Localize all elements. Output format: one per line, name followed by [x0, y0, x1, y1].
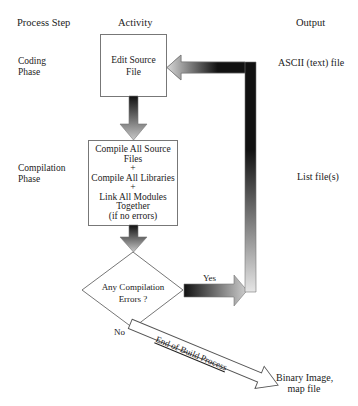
branch-no-label: No	[114, 327, 125, 338]
header-process-step: Process Step	[17, 17, 70, 28]
output-ascii: ASCII (text) file	[278, 57, 344, 68]
output-binary: Binary Image, map file	[276, 372, 332, 394]
output-list: List file(s)	[297, 171, 339, 182]
header-output: Output	[296, 17, 325, 28]
compile-label: Compile All Source Files + Compile All L…	[88, 145, 178, 221]
decision-label: Any Compilation Errors ?	[95, 282, 171, 305]
header-activity: Activity	[118, 17, 152, 28]
phase-compilation: Compilation Phase	[18, 163, 66, 185]
edit-source-label: Edit Source File	[100, 55, 167, 78]
arrow-down-icon	[120, 96, 147, 140]
phase-coding: Coding Phase	[18, 56, 46, 78]
arrow-loop-back-icon	[167, 55, 256, 292]
arrow-down-icon	[120, 225, 147, 252]
branch-yes-label: Yes	[203, 273, 216, 284]
